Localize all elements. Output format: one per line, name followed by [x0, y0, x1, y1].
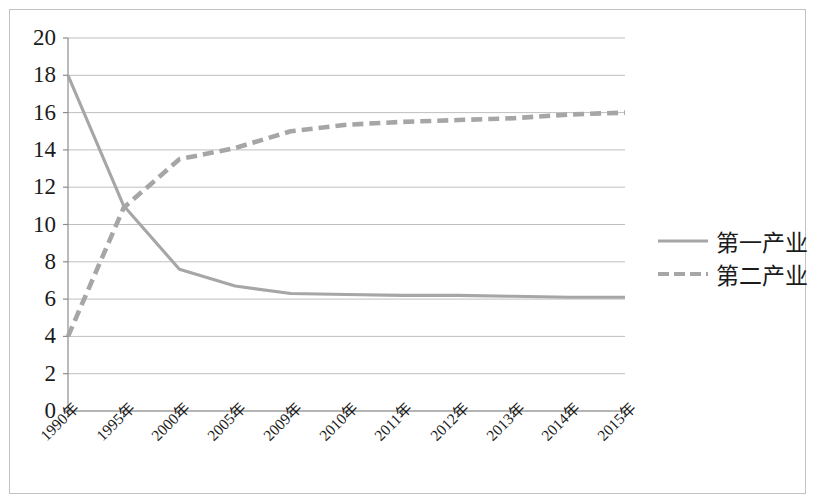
y-tick-label: 8	[10, 250, 56, 273]
chart-legend: 第一产业 第二产业	[658, 224, 808, 290]
y-tick-label: 2	[10, 362, 56, 385]
legend-item-series-1: 第一产业	[658, 224, 808, 257]
y-tick-label: 6	[10, 287, 56, 310]
gridlines-group	[68, 38, 625, 411]
legend-line-sample-solid	[658, 235, 708, 247]
y-tick-label: 14	[10, 138, 56, 161]
legend-line-sample-dashed	[658, 268, 708, 280]
y-tick-label: 20	[10, 26, 56, 49]
legend-label-series-2: 第二产业	[716, 257, 808, 291]
y-tick-label: 12	[10, 175, 56, 198]
legend-item-series-2: 第二产业	[658, 257, 808, 290]
y-tick-label: 18	[10, 63, 56, 86]
y-tick-label: 10	[10, 213, 56, 236]
legend-label-series-1: 第一产业	[716, 224, 808, 258]
y-tick-label: 16	[10, 101, 56, 124]
chart-figure: 02468101214161820 1990年1995年2000年2005年20…	[0, 0, 815, 504]
data-series-group	[68, 75, 625, 336]
y-tick-label: 4	[10, 324, 56, 347]
y-tick-marks-group	[63, 38, 68, 411]
